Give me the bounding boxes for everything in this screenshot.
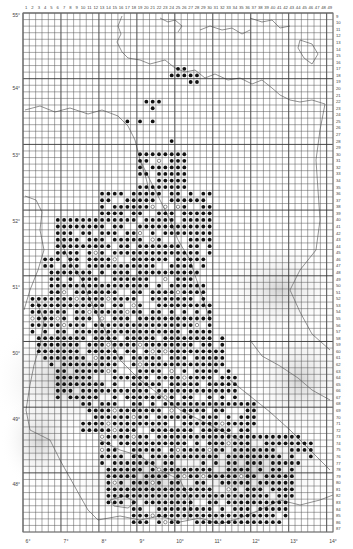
record-dot xyxy=(208,218,212,222)
open-record-dot xyxy=(138,231,141,234)
record-dot xyxy=(69,303,73,307)
record-dot xyxy=(189,468,193,472)
record-dot xyxy=(151,165,155,169)
record-dot xyxy=(277,520,281,524)
record-dot xyxy=(144,152,148,156)
record-dot xyxy=(138,303,142,307)
record-dot xyxy=(113,363,117,367)
record-dot xyxy=(271,448,275,452)
record-dot xyxy=(195,271,199,275)
record-dot xyxy=(157,271,161,275)
row-label: 48 xyxy=(336,270,341,275)
record-dot xyxy=(100,205,104,209)
record-dot xyxy=(151,501,155,505)
record-dot xyxy=(125,422,129,426)
record-dot xyxy=(239,507,243,511)
record-dot xyxy=(138,277,142,281)
record-dot xyxy=(170,395,174,399)
record-dot xyxy=(239,455,243,459)
record-dot xyxy=(157,422,161,426)
record-dot xyxy=(182,310,186,314)
record-dot xyxy=(233,487,237,491)
record-dot xyxy=(189,382,193,386)
record-dot xyxy=(189,198,193,202)
record-dot xyxy=(170,481,174,485)
row-label: 56 xyxy=(336,323,341,328)
record-dot xyxy=(271,501,275,505)
column-label: 41 xyxy=(277,5,282,10)
record-dot xyxy=(56,238,60,242)
record-dot xyxy=(271,487,275,491)
record-dot xyxy=(125,474,129,478)
open-record-dot xyxy=(113,409,116,412)
record-dot xyxy=(144,395,148,399)
row-label: 43 xyxy=(336,237,341,242)
record-dot xyxy=(201,428,205,432)
record-dot xyxy=(56,310,60,314)
open-record-dot xyxy=(164,350,167,353)
record-dot xyxy=(144,284,148,288)
record-dot xyxy=(125,487,129,491)
record-dot xyxy=(220,389,224,393)
record-dot xyxy=(62,225,66,229)
record-dot xyxy=(107,363,111,367)
record-dot xyxy=(189,303,193,307)
record-dot xyxy=(239,468,243,472)
record-dot xyxy=(163,468,167,472)
record-dot xyxy=(88,343,92,347)
record-dot xyxy=(69,244,73,248)
record-dot xyxy=(81,389,85,393)
record-dot xyxy=(246,494,250,498)
column-label: 9 xyxy=(76,5,79,10)
record-dot xyxy=(182,422,186,426)
record-dot xyxy=(94,330,98,334)
record-dot xyxy=(189,402,193,406)
record-dot xyxy=(303,448,307,452)
record-dot xyxy=(208,520,212,524)
record-dot xyxy=(246,448,250,452)
row-label: 65 xyxy=(336,382,341,387)
record-dot xyxy=(100,310,104,314)
record-dot xyxy=(163,494,167,498)
record-dot xyxy=(144,422,148,426)
record-dot xyxy=(220,395,224,399)
record-dot xyxy=(62,303,66,307)
record-dot xyxy=(113,376,117,380)
open-record-dot xyxy=(56,317,59,320)
record-dot xyxy=(290,494,294,498)
record-dot xyxy=(176,441,180,445)
record-dot xyxy=(56,244,60,248)
record-dot xyxy=(151,494,155,498)
record-dot xyxy=(271,435,275,439)
record-dot xyxy=(113,369,117,373)
record-dot xyxy=(138,317,142,321)
record-dot xyxy=(31,330,35,334)
record-dot xyxy=(157,185,161,189)
row-label: 9 xyxy=(336,14,339,19)
record-dot xyxy=(163,172,167,176)
record-dot xyxy=(271,520,275,524)
open-record-dot xyxy=(94,356,97,359)
record-dot xyxy=(214,389,218,393)
row-label: 13 xyxy=(336,40,341,45)
record-dot xyxy=(170,349,174,353)
record-dot xyxy=(195,330,199,334)
record-dot xyxy=(107,290,111,294)
open-record-dot xyxy=(126,310,129,313)
record-dot xyxy=(151,231,155,235)
open-record-dot xyxy=(113,258,116,261)
record-dot xyxy=(208,382,212,386)
record-dot xyxy=(100,323,104,327)
record-dot xyxy=(182,336,186,340)
record-dot xyxy=(43,303,47,307)
record-dot xyxy=(132,205,136,209)
record-dot xyxy=(75,376,79,380)
record-dot xyxy=(151,100,155,104)
record-dot xyxy=(277,487,281,491)
record-dot xyxy=(100,290,104,294)
record-dot xyxy=(220,356,224,360)
record-dot xyxy=(182,356,186,360)
record-dot xyxy=(163,441,167,445)
record-dot xyxy=(189,494,193,498)
record-dot xyxy=(119,330,123,334)
